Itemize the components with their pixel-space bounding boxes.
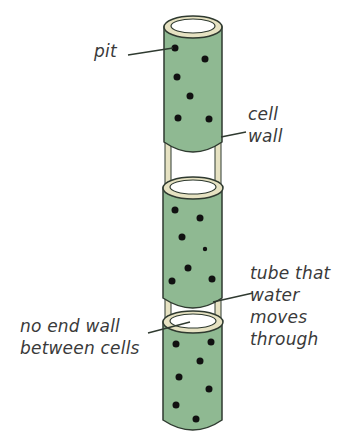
label-tube-water-moves-through: tube that water moves through: [250, 262, 330, 350]
cell-wall-leader: [221, 132, 246, 137]
label-no-end-wall: no end wall between cells: [20, 315, 140, 359]
xylem-vessel-diagram: [0, 0, 352, 448]
label-pit: pit: [94, 40, 117, 62]
middle-cell: [163, 177, 223, 308]
top-cell: [164, 16, 222, 152]
label-cell-wall: cell wall: [248, 103, 283, 147]
bottom-cell: [163, 311, 223, 430]
